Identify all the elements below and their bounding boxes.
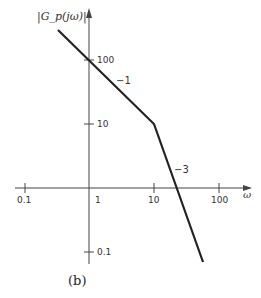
figure-caption: (b): [68, 273, 86, 288]
y-tick-label: 10: [97, 119, 109, 129]
y-axis-label: |G_p(jω)|: [37, 10, 87, 24]
x-tick-label: 10: [148, 195, 160, 205]
y-axis-arrow-icon: [86, 8, 92, 18]
x-axis-label: ω: [243, 189, 251, 200]
bode-magnitude-plot: 0.1 1 10 100 100 10 0.1 |G_p(jω)| ω −1 −…: [0, 0, 261, 298]
y-tick-label: 0.1: [97, 247, 111, 257]
x-tick-label: 1: [95, 195, 101, 205]
slope-label-minus-1: −1: [116, 75, 131, 86]
x-tick-label: 0.1: [17, 195, 31, 205]
slope-label-minus-3: −3: [174, 164, 189, 175]
x-tick-label: 100: [211, 195, 228, 205]
y-tick-label: 100: [97, 55, 114, 65]
magnitude-asymptote-line: [58, 30, 203, 262]
